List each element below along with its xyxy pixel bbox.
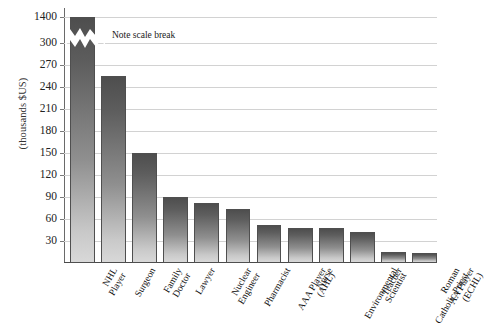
x-axis-label: Surgeon — [133, 266, 158, 299]
y-tick-label: 60 — [46, 213, 58, 225]
bars — [64, 8, 437, 263]
y-tick-label: 90 — [46, 191, 58, 203]
x-label-line: Pharmacist — [261, 266, 292, 308]
bar — [381, 252, 406, 263]
bar — [226, 209, 251, 263]
x-axis-labels: NHLPlayerSurgeonFamilyDoctorLawyerNuclea… — [64, 266, 437, 332]
bar — [101, 76, 126, 263]
y-tick-label: 180 — [40, 125, 57, 137]
bar — [257, 225, 282, 263]
y-tick-label: 210 — [40, 103, 57, 115]
y-tick-label: 30 — [46, 235, 58, 247]
bar — [288, 228, 313, 263]
x-axis-label: Pharmacist — [262, 266, 292, 308]
bar — [319, 228, 344, 263]
x-axis-label: FamilyDoctor — [161, 266, 192, 300]
x-label-line: Surgeon — [132, 266, 157, 299]
y-tick-label: 270 — [40, 59, 57, 71]
y-tick-label: 150 — [40, 147, 57, 159]
y-tick-label: 1400 — [34, 11, 57, 23]
scale-break-note: Note scale break — [112, 30, 175, 40]
bar — [412, 253, 437, 263]
bar — [163, 197, 188, 263]
y-tick-label: 300 — [40, 37, 57, 49]
y-tick-label: 120 — [40, 169, 57, 181]
x-label-line: Lawyer — [193, 266, 217, 297]
bar — [350, 232, 375, 263]
x-axis-label: Lawyer — [193, 266, 216, 296]
plot-area: 1400300270240210180150120906030 Note sca… — [64, 8, 437, 263]
y-tick-label: 240 — [40, 81, 57, 93]
bar — [194, 203, 219, 263]
x-axis-label: NuclearEngineer — [227, 266, 262, 306]
bar — [132, 153, 157, 263]
x-axis-label: NHLPlayer — [98, 266, 128, 297]
bar — [70, 17, 95, 263]
y-axis-title: (thousands $US) — [17, 44, 28, 184]
